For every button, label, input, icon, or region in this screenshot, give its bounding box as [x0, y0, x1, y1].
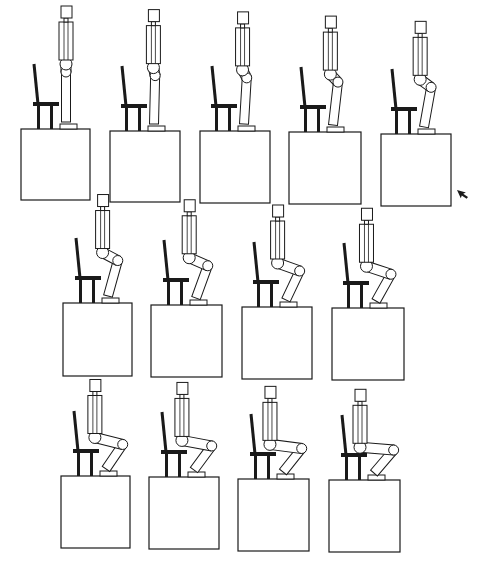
- foot: [370, 303, 387, 308]
- frame-4: [289, 16, 361, 204]
- torso: [59, 22, 73, 60]
- head: [273, 205, 284, 217]
- knee-joint: [297, 443, 307, 453]
- foot: [327, 127, 344, 132]
- platform-box: [332, 308, 404, 380]
- shin: [329, 82, 343, 126]
- chair-leg: [50, 104, 53, 129]
- knee-joint: [113, 256, 123, 266]
- shin: [420, 87, 436, 128]
- chair-leg: [90, 451, 93, 476]
- chair-seat: [300, 105, 326, 109]
- chair-leg: [167, 280, 170, 305]
- chair-back: [301, 67, 305, 107]
- frame-9: [332, 208, 404, 380]
- chair-leg: [79, 278, 82, 303]
- head: [361, 208, 372, 220]
- foot: [277, 474, 294, 479]
- chair-back: [162, 412, 166, 452]
- chair-seat: [391, 107, 417, 111]
- torso: [146, 26, 160, 64]
- chair-leg: [165, 452, 168, 477]
- frame-11: [149, 382, 219, 549]
- knee-joint: [295, 266, 305, 276]
- head: [325, 16, 336, 28]
- chair-back: [251, 414, 255, 454]
- chair-back: [254, 242, 258, 282]
- head: [148, 10, 159, 22]
- frame-13: [329, 389, 400, 552]
- foot: [280, 302, 297, 307]
- platform-box: [21, 129, 90, 200]
- torso: [271, 221, 285, 259]
- chair-back: [74, 411, 78, 451]
- chair-back: [344, 243, 348, 283]
- frame-7: [151, 200, 222, 377]
- chair-leg: [37, 104, 40, 129]
- head: [177, 382, 188, 394]
- head: [265, 386, 276, 398]
- torso: [359, 224, 373, 262]
- chair-seat: [121, 104, 147, 108]
- chair-leg: [358, 455, 361, 480]
- chair-leg: [347, 283, 350, 308]
- chair-seat: [341, 453, 367, 457]
- platform-box: [61, 476, 130, 548]
- platform-box: [200, 131, 270, 203]
- torso: [236, 28, 250, 66]
- head: [184, 200, 195, 212]
- foot: [100, 471, 117, 476]
- shin: [150, 76, 160, 125]
- head: [355, 389, 366, 401]
- frame-8: [242, 205, 312, 379]
- chair-leg: [270, 282, 273, 307]
- neck: [180, 394, 184, 398]
- frame-1: [21, 6, 90, 200]
- head: [61, 6, 72, 18]
- neck: [101, 207, 105, 211]
- chair-back: [392, 69, 396, 109]
- platform-box: [151, 305, 222, 377]
- torso: [413, 37, 427, 75]
- neck: [358, 401, 362, 405]
- platform-box: [329, 480, 400, 552]
- chair-seat: [33, 102, 59, 106]
- neck: [151, 22, 155, 26]
- chair-leg: [408, 109, 411, 134]
- platform-box: [149, 477, 219, 549]
- frame-5: [381, 21, 451, 206]
- chair-back: [342, 415, 346, 455]
- neck: [364, 220, 368, 224]
- foot: [418, 129, 435, 134]
- chair-leg: [77, 451, 80, 476]
- head: [238, 12, 249, 24]
- chair-seat: [73, 449, 99, 453]
- frame-3: [200, 12, 270, 203]
- chair-seat: [161, 450, 187, 454]
- neck: [93, 391, 97, 395]
- chair-leg: [360, 283, 363, 308]
- chair-seat: [211, 104, 237, 108]
- neck: [276, 217, 280, 221]
- neck: [328, 28, 332, 32]
- chair-leg: [92, 278, 95, 303]
- chair-seat: [163, 278, 189, 282]
- neck: [418, 33, 422, 37]
- chair-seat: [343, 281, 369, 285]
- stand-to-sit-sequence-diagram: [0, 0, 481, 568]
- neck: [187, 212, 191, 216]
- foot: [238, 126, 255, 131]
- torso: [175, 398, 189, 436]
- shin: [240, 78, 252, 125]
- frame-2: [110, 10, 180, 202]
- platform-box: [381, 134, 451, 206]
- knee-joint: [386, 269, 396, 279]
- chair-leg: [125, 106, 128, 131]
- chair-seat: [75, 276, 101, 280]
- knee-joint: [118, 439, 128, 449]
- torso: [88, 395, 102, 433]
- torso: [96, 211, 110, 249]
- chair-back: [34, 64, 38, 104]
- torso: [353, 405, 367, 443]
- torso: [263, 402, 277, 440]
